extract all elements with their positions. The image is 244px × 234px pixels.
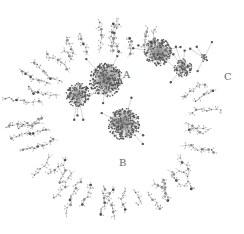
- cluster-label-b: B: [119, 158, 126, 168]
- network-diagram: [0, 0, 244, 234]
- cluster-label-c: C: [224, 72, 232, 82]
- cluster-label-a: A: [123, 70, 130, 80]
